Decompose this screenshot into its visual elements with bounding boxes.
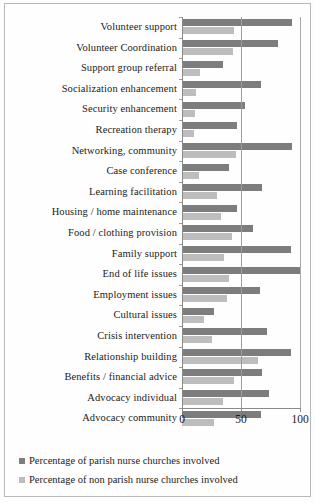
category-label: End of life issues xyxy=(14,264,182,285)
bar-series-2 xyxy=(182,336,212,343)
bar-rows: Volunteer supportVolunteer CoordinationS… xyxy=(14,17,311,429)
row-bars xyxy=(182,141,311,162)
category-label: Socialization enhancement xyxy=(14,79,182,100)
square-marker-icon xyxy=(19,458,25,464)
bar-series-2 xyxy=(182,398,223,405)
chart-row: Crisis intervention xyxy=(14,326,311,347)
x-tick-100 xyxy=(300,408,301,412)
chart-row: Learning facilitation xyxy=(14,182,311,203)
chart-row: Advocacy individual xyxy=(14,388,311,409)
chart-row: Security enhancement xyxy=(14,99,311,120)
category-label: Volunteer support xyxy=(14,17,182,38)
x-tick-label: 100 xyxy=(291,413,308,425)
row-bars xyxy=(182,58,311,79)
x-tick-50 xyxy=(241,408,242,412)
category-label: Crisis intervention xyxy=(14,326,182,347)
legend-label: Percentage of parish nurse churches invo… xyxy=(29,455,219,466)
bar-series-1 xyxy=(182,308,214,315)
legend-label: Percentage of non parish nurse churches … xyxy=(29,474,238,485)
bar-series-2 xyxy=(182,110,195,117)
chart-row: Volunteer support xyxy=(14,17,311,38)
bar-series-2 xyxy=(182,233,232,240)
chart-row: Recreation therapy xyxy=(14,120,311,141)
square-marker-icon xyxy=(19,477,25,483)
chart-row: Socialization enhancement xyxy=(14,79,311,100)
row-bars xyxy=(182,388,311,409)
plot-area: Volunteer supportVolunteer CoordinationS… xyxy=(14,12,311,427)
row-bars xyxy=(182,347,311,368)
bar-series-2 xyxy=(182,357,258,364)
bar-series-1 xyxy=(182,246,291,253)
legend-item[interactable]: Percentage of non parish nurse churches … xyxy=(19,471,299,488)
chart-page: Volunteer supportVolunteer CoordinationS… xyxy=(0,0,315,503)
row-bars xyxy=(182,244,311,265)
gridline-100 xyxy=(300,17,301,408)
bar-series-2 xyxy=(182,151,236,158)
row-bars xyxy=(182,305,311,326)
bar-series-2 xyxy=(182,316,204,323)
x-tick-0 xyxy=(182,408,183,412)
bar-series-2 xyxy=(182,172,199,179)
gridline-50 xyxy=(241,17,242,408)
chart-row: Networking, community xyxy=(14,141,311,162)
row-bars xyxy=(182,38,311,59)
bar-series-1 xyxy=(182,349,291,356)
chart-row: End of life issues xyxy=(14,264,311,285)
bar-series-1 xyxy=(182,184,262,191)
row-bars xyxy=(182,326,311,347)
row-bars xyxy=(182,161,311,182)
chart-row: Benefits / financial advice xyxy=(14,367,311,388)
chart-row: Employment issues xyxy=(14,285,311,306)
row-bars xyxy=(182,285,311,306)
category-label: Networking, community xyxy=(14,141,182,162)
category-label: Learning facilitation xyxy=(14,182,182,203)
category-label: Family support xyxy=(14,244,182,265)
bar-series-2 xyxy=(182,377,234,384)
bar-series-1 xyxy=(182,122,237,129)
row-bars xyxy=(182,264,311,285)
bar-series-1 xyxy=(182,328,267,335)
category-label: Advocacy individual xyxy=(14,388,182,409)
category-label: Employment issues xyxy=(14,285,182,306)
chart-row: Case conference xyxy=(14,161,311,182)
bar-series-1 xyxy=(182,164,229,171)
x-axis-labels: 050100 xyxy=(14,413,311,431)
bar-series-2 xyxy=(182,69,200,76)
bar-series-1 xyxy=(182,81,261,88)
row-bars xyxy=(182,120,311,141)
chart-row: Relationship building xyxy=(14,347,311,368)
bar-series-2 xyxy=(182,213,221,220)
row-bars xyxy=(182,79,311,100)
bar-series-2 xyxy=(182,27,234,34)
row-bars xyxy=(182,367,311,388)
category-label: Relationship building xyxy=(14,347,182,368)
category-label: Housing / home maintenance xyxy=(14,202,182,223)
category-label: Cultural issues xyxy=(14,305,182,326)
row-bars xyxy=(182,17,311,38)
chart-row: Support group referral xyxy=(14,58,311,79)
bar-series-1 xyxy=(182,225,253,232)
bar-series-2 xyxy=(182,275,229,282)
row-bars xyxy=(182,99,311,120)
y-axis-line xyxy=(182,17,183,408)
chart-legend: Percentage of parish nurse churches invo… xyxy=(19,452,299,490)
category-label: Security enhancement xyxy=(14,99,182,120)
bar-series-2 xyxy=(182,295,227,302)
category-label: Case conference xyxy=(14,161,182,182)
bar-series-1 xyxy=(182,102,245,109)
chart-frame: Volunteer supportVolunteer CoordinationS… xyxy=(4,3,311,497)
bar-series-2 xyxy=(182,130,194,137)
chart-row: Cultural issues xyxy=(14,305,311,326)
chart-row: Housing / home maintenance xyxy=(14,202,311,223)
chart-row: Family support xyxy=(14,244,311,265)
category-label: Volunteer Coordination xyxy=(14,38,182,59)
bar-series-2 xyxy=(182,48,233,55)
bar-series-1 xyxy=(182,143,292,150)
bar-series-1 xyxy=(182,205,237,212)
bar-series-1 xyxy=(182,287,260,294)
bar-series-1 xyxy=(182,390,269,397)
category-label: Support group referral xyxy=(14,58,182,79)
legend-item[interactable]: Percentage of parish nurse churches invo… xyxy=(19,452,299,469)
row-bars xyxy=(182,182,311,203)
bar-series-2 xyxy=(182,192,217,199)
